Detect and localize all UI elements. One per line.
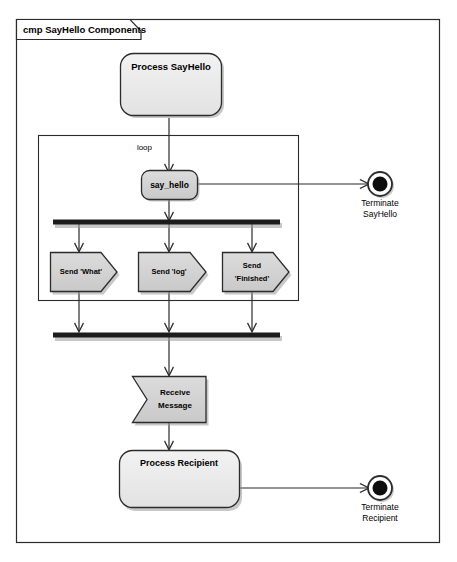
process-sayhello-label: Process SayHello [131,61,211,72]
node-say-hello[interactable]: say_hello [142,171,200,202]
fork-bar [53,220,282,229]
send-finished-label-line2: 'Finished' [235,274,270,283]
send-what-label: Send 'What' [60,267,103,276]
node-process-sayhello[interactable]: Process SayHello [121,54,225,119]
diagram-canvas: cmp SayHello Components [0,0,457,562]
fork-bar-shape [53,220,280,225]
terminate-recipient-label-line1: Terminate [361,502,399,512]
node-process-recipient[interactable]: Process Recipient [120,451,243,512]
terminate-sayhello-dot [373,177,388,192]
receive-message-label-line1: Receive [160,388,191,397]
join-bar [53,333,282,342]
send-finished-label-line1: Send [243,261,262,270]
send-log-label: Send 'log' [151,267,186,276]
say-hello-label: say_hello [150,180,189,190]
receive-message-label-line2: Message [158,401,192,410]
loop-frame-label: loop [137,143,153,152]
terminate-recipient-label-line2: Recipient [362,513,398,523]
uml-diagram: cmp SayHello Components [0,0,457,562]
terminate-sayhello-label-line1: Terminate [361,198,399,208]
terminate-recipient-dot [373,481,388,496]
process-recipient-label: Process Recipient [140,458,218,468]
diagram-frame-title: cmp SayHello Components [23,24,146,35]
join-bar-shape [53,333,280,338]
terminate-sayhello-label-line2: SayHello [363,209,397,219]
